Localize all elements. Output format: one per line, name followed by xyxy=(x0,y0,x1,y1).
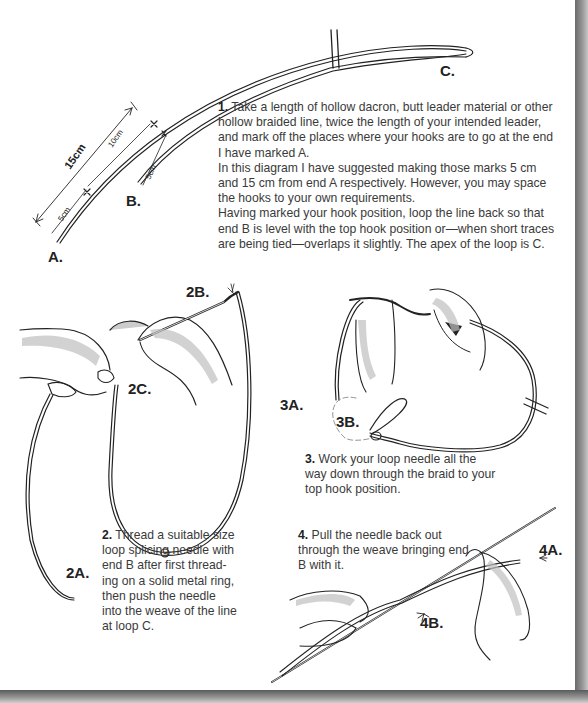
page-shadow-bottom xyxy=(0,690,588,703)
step-3-para-1: Work your loop needle all the way down t… xyxy=(305,452,495,496)
step-1-number: 1. xyxy=(218,100,228,114)
label-a: A. xyxy=(48,248,63,265)
label-2a: 2A. xyxy=(66,564,89,581)
step-2-para-1: Thread a suitable size loop splicing nee… xyxy=(102,528,237,633)
manual-page: 15cm 10cm 5cm 5cm C. A. B. 2B. 2C. 2A. 3… xyxy=(0,0,575,690)
step-1-para-1: Take a length of hollow dacron, butt lea… xyxy=(218,100,553,160)
step-4-text: 4. Pull the needle back out through the … xyxy=(298,528,478,574)
step-4-number: 4. xyxy=(298,528,308,542)
label-b: B. xyxy=(126,192,141,209)
dimension-15cm: 15cm xyxy=(62,141,88,171)
label-c: C. xyxy=(440,62,455,79)
dimension-10cm: 10cm xyxy=(106,128,125,149)
page-shadow-right xyxy=(575,0,588,703)
label-4a: 4A. xyxy=(539,541,562,558)
step-2-number: 2. xyxy=(102,528,112,542)
step-4-para-1: Pull the needle back out through the wea… xyxy=(298,528,469,572)
step-3-text: 3. Work your loop needle all the way dow… xyxy=(305,452,500,498)
label-4b: 4B. xyxy=(420,614,443,631)
step-1-text: 1. Take a length of hollow dacron, butt … xyxy=(218,100,558,252)
label-2c: 2C. xyxy=(128,380,151,397)
step-1-para-3: Having marked your hook position, loop t… xyxy=(218,206,558,252)
dimension-5cm-a: 5cm xyxy=(56,205,72,223)
hand-shading-2 xyxy=(22,329,218,384)
hands-braid-diagram-3 xyxy=(333,289,548,452)
step-3-number: 3. xyxy=(305,452,315,466)
label-2b: 2B. xyxy=(186,283,209,300)
label-3b: 3B. xyxy=(336,413,359,430)
step-1-para-2: In this diagram I have suggested making … xyxy=(218,161,558,207)
label-3a: 3A. xyxy=(280,396,303,413)
step-2-text: 2. Thread a suitable size loop splicing … xyxy=(102,528,237,634)
